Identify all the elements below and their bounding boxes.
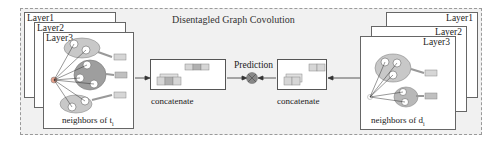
- left-graph-icon: [51, 38, 127, 113]
- left-concat-blocks: [157, 64, 209, 85]
- right-graph-icon: [368, 54, 438, 107]
- multiply-operator-icon: [247, 73, 258, 84]
- diagram-graphics: [0, 0, 486, 146]
- right-concat-blocks: [284, 64, 325, 85]
